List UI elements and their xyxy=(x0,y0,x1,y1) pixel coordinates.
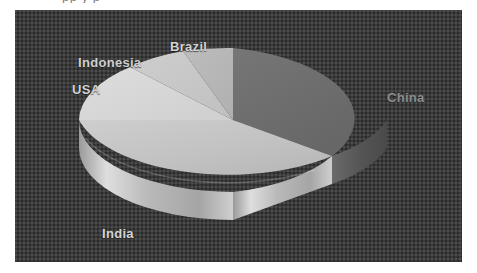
pie-label-indonesia: Indonesia xyxy=(78,56,141,69)
pie-label-india: India xyxy=(102,227,134,240)
pie-chart-panel: Brazil Indonesia USA India China xyxy=(15,10,462,262)
pie-label-china: China xyxy=(387,91,425,104)
cropped-title-text: pp y p xyxy=(0,0,477,3)
pie-chart-graphic xyxy=(15,10,462,262)
pie-label-brazil: Brazil xyxy=(170,40,207,53)
pie-label-usa: USA xyxy=(72,83,100,96)
